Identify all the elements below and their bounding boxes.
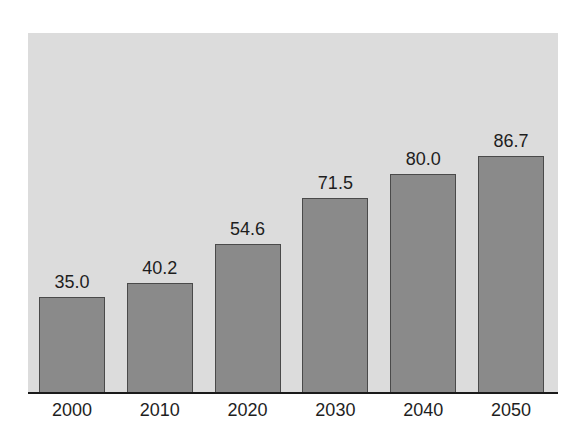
x-tick-label-2020: 2020 [208,400,288,421]
x-tick-label-2050: 2050 [471,400,551,421]
x-tick-label-2030: 2030 [295,400,375,421]
bar-2010 [127,283,193,393]
value-label-2030: 71.5 [295,173,375,194]
bar-2040 [390,174,456,393]
value-label-2040: 80.0 [383,149,463,170]
value-label-2020: 54.6 [208,219,288,240]
x-tick-label-2010: 2010 [120,400,200,421]
x-tick-label-2000: 2000 [32,400,112,421]
bar-2030 [302,198,368,393]
x-axis-line [28,392,558,394]
value-label-2050: 86.7 [471,131,551,152]
bar-2050 [478,156,544,393]
value-label-2000: 35.0 [32,272,112,293]
value-label-2010: 40.2 [120,258,200,279]
bar-2020 [215,244,281,393]
bar-2000 [39,297,105,393]
x-tick-label-2040: 2040 [383,400,463,421]
